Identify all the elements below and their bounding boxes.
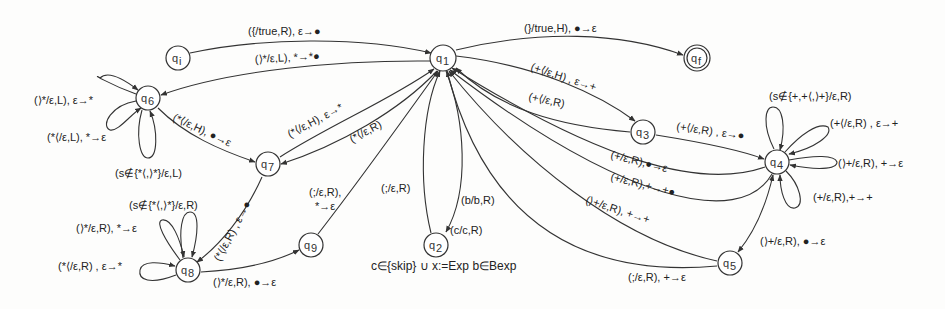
state-qi[interactable]: qi bbox=[166, 46, 190, 70]
label-loop-q6-c: (s∉{*⟨,⟩*}/ε,L) bbox=[115, 167, 182, 179]
svg-text:q: q bbox=[181, 264, 187, 276]
loop-q6-top bbox=[97, 75, 138, 94]
loop-q4-right bbox=[789, 156, 837, 168]
state-q3[interactable]: q3 bbox=[631, 120, 655, 144]
label-qi-q1: ({/true,R), ε→● bbox=[248, 25, 321, 37]
edge-q1-qf bbox=[456, 36, 683, 55]
svg-text:q: q bbox=[636, 126, 642, 138]
loop-q4-upperright bbox=[785, 126, 829, 154]
svg-text:1: 1 bbox=[443, 55, 449, 67]
pda-diagram: qi q1 qf q6 q3 q7 q4 q9 bbox=[0, 0, 945, 309]
state-q9[interactable]: q9 bbox=[299, 233, 323, 257]
label-q7-q8: (*⟨/ε,R) , ε→● bbox=[211, 199, 253, 263]
edge-q7-q8 bbox=[197, 177, 262, 262]
loops bbox=[97, 75, 837, 280]
state-q6[interactable]: q6 bbox=[136, 86, 160, 110]
label-loop-q4-b: (+⟨/ε,R) , ε→+ bbox=[830, 117, 898, 129]
svg-text:q: q bbox=[770, 156, 776, 168]
svg-text:2: 2 bbox=[436, 242, 442, 254]
label-q1-q7: (*⟨/ε,R) bbox=[347, 118, 383, 145]
state-q4[interactable]: q4 bbox=[765, 150, 789, 174]
label-loop-q4-a: (s∉{+,+⟨,⟩+}/ε,R) bbox=[769, 90, 852, 102]
label-q6-q7: (*⟨/ε,H), ●→ε bbox=[171, 111, 233, 149]
state-qf-accepting[interactable]: qf bbox=[684, 45, 710, 71]
label-q1-q6: (⟩*/ε,L), *→*● bbox=[254, 50, 320, 65]
label-q4-q1-a: (+/ε,R),●→ε bbox=[610, 148, 670, 174]
edge-q9-q1 bbox=[318, 71, 438, 234]
label-q9-q1: (;/ε,R),*→ε bbox=[309, 186, 341, 212]
svg-text:5: 5 bbox=[730, 260, 736, 272]
edge-q4-q1-a bbox=[452, 68, 765, 174]
edge-q3-q4 bbox=[656, 135, 764, 159]
label-q3-q1: (+⟨/ε,R) bbox=[528, 90, 566, 109]
loop-q6-left bbox=[106, 101, 141, 130]
caption: c∈{skip} ∪ x:=Exp b∈Bexp bbox=[371, 259, 517, 273]
svg-text:q: q bbox=[304, 239, 310, 251]
label-q4-q1-b: (+/ε,R),+→+● bbox=[610, 170, 677, 198]
svg-text:q: q bbox=[172, 52, 178, 64]
svg-text:q: q bbox=[261, 158, 267, 170]
label-q4-q5: (⟩+/ε,R), ●→ε bbox=[760, 235, 825, 247]
edges bbox=[158, 36, 773, 272]
edge-q5-q1-b bbox=[447, 71, 717, 268]
label-q5-q1-b: (;/ε,R), +→ε bbox=[628, 271, 686, 283]
label-loop-q4-c: (⟩+/ε,R), +→ε bbox=[838, 157, 903, 169]
edge-q2-q1 bbox=[423, 71, 440, 233]
label-loop-q8-b: (⟩*/ε,R), *→ε bbox=[76, 222, 137, 234]
svg-text:6: 6 bbox=[148, 95, 154, 107]
label-q1-q2-c: (c/c,R) bbox=[450, 224, 482, 236]
loop-q6-bottom bbox=[139, 110, 156, 158]
label-loop-q6-a: (⟩*/ε,L), ε→* bbox=[34, 94, 94, 106]
svg-text:8: 8 bbox=[188, 267, 194, 279]
svg-text:3: 3 bbox=[643, 129, 649, 141]
svg-text:7: 7 bbox=[268, 161, 274, 173]
label-loop-q4-d: (+/ε,R),+→+ bbox=[813, 191, 873, 203]
label-q1-q3: (+⟨/ε,H) , ε→+ bbox=[529, 60, 598, 92]
label-q8-q9: (⟩*/ε,R), ●→ε bbox=[213, 276, 276, 288]
state-q1[interactable]: q1 bbox=[430, 45, 456, 71]
svg-text:q: q bbox=[436, 52, 442, 64]
label-q2-q1: (;/ε,R) bbox=[381, 182, 410, 194]
loop-q4-top bbox=[766, 107, 783, 150]
label-q3-q4: (+⟨/ε,R) , ε→● bbox=[676, 120, 745, 141]
svg-text:q: q bbox=[691, 52, 697, 64]
loop-q8-left bbox=[140, 263, 176, 281]
label-loop-q8-a: (s∉{*⟨,⟩*}/ε,R) bbox=[129, 199, 198, 211]
label-loop-q8-c: (*⟨/ε,R) , ε→* bbox=[58, 260, 123, 272]
label-q7-q1: (*⟨/ε,H), ε→* bbox=[285, 100, 345, 140]
svg-text:i: i bbox=[179, 55, 181, 67]
state-q2[interactable]: q2 bbox=[424, 233, 448, 257]
edge-q1-q7 bbox=[281, 71, 437, 164]
loop-q4-lower bbox=[780, 171, 800, 208]
label-q9-q1-line1: (;/ε,R), bbox=[309, 186, 341, 198]
state-q5[interactable]: q5 bbox=[718, 251, 742, 275]
state-q8[interactable]: q8 bbox=[176, 258, 200, 282]
svg-text:q: q bbox=[429, 239, 435, 251]
label-q9-q1-line2: *→ε bbox=[315, 200, 335, 212]
state-q7[interactable]: q7 bbox=[256, 152, 280, 176]
loop-q8-top bbox=[181, 212, 197, 258]
svg-text:4: 4 bbox=[777, 159, 783, 171]
svg-text:q: q bbox=[141, 92, 147, 104]
label-loop-q6-b: (*⟨/ε,L), *→ε bbox=[47, 131, 106, 143]
label-q1-q2-b: (b/b,R) bbox=[461, 194, 495, 206]
svg-text:q: q bbox=[723, 257, 729, 269]
edge-q1-q6 bbox=[161, 61, 431, 95]
label-q1-qf: (}/true,H), ●→ε bbox=[524, 22, 597, 34]
edge-q7-q1 bbox=[280, 69, 434, 157]
svg-text:9: 9 bbox=[311, 242, 317, 254]
